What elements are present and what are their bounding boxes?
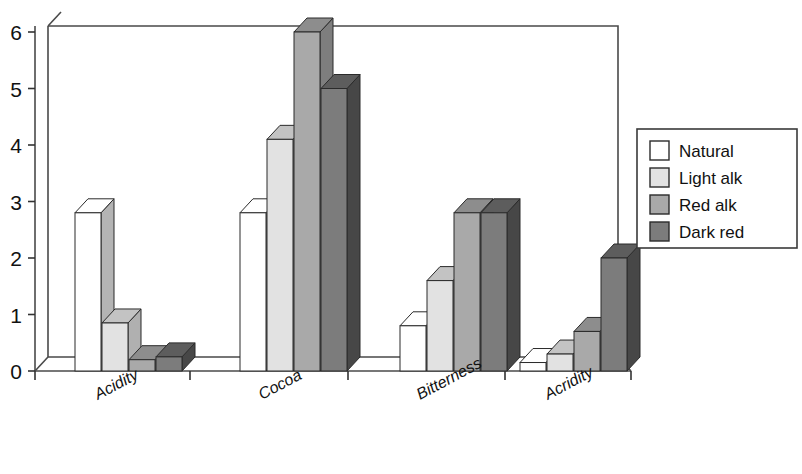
y-tick-label-4: 4 xyxy=(10,134,22,157)
bar-acridity-dark-red xyxy=(601,244,640,371)
bar-front-face xyxy=(427,281,453,371)
chart-container: 0123456 AcidityCocoaBitternessAcridity N… xyxy=(0,0,802,474)
bar-bitterness-dark-red xyxy=(481,199,520,371)
bar-cocoa-dark-red xyxy=(321,75,360,372)
y-tick-label-5: 5 xyxy=(10,78,22,101)
legend-swatch xyxy=(650,168,669,187)
bar-chart-3d: 0123456 AcidityCocoaBitternessAcridity N… xyxy=(0,0,802,474)
bar-front-face xyxy=(400,326,426,371)
legend-label: Dark red xyxy=(679,223,744,242)
legend-swatch xyxy=(650,195,669,214)
plot-floor-left-diagonal xyxy=(35,357,48,371)
y-tick-label-6: 6 xyxy=(10,21,22,44)
legend-item-natural[interactable]: Natural xyxy=(650,141,734,161)
bar-front-face xyxy=(267,139,293,371)
y-axis-ticks: 0123456 xyxy=(10,21,35,383)
bar-side-face xyxy=(347,75,360,372)
bar-side-face xyxy=(627,244,640,371)
legend-label: Red alk xyxy=(679,196,737,215)
legend-swatch xyxy=(650,141,669,160)
y-tick-label-0: 0 xyxy=(10,360,22,383)
bar-front-face xyxy=(601,258,627,371)
legend-swatch xyxy=(650,222,669,241)
bar-front-face xyxy=(454,213,480,371)
legend-item-light-alk[interactable]: Light alk xyxy=(650,168,743,188)
legend: NaturalLight alkRed alkDark red xyxy=(637,129,797,248)
y-tick-label-2: 2 xyxy=(10,247,22,270)
bar-front-face xyxy=(294,32,320,371)
y-tick-label-1: 1 xyxy=(10,304,22,327)
bar-front-face xyxy=(547,354,573,371)
legend-item-dark-red[interactable]: Dark red xyxy=(650,222,744,242)
plot-depth-edge-left xyxy=(48,12,61,26)
bar-front-face xyxy=(321,89,347,372)
bar-front-face xyxy=(481,213,507,371)
bars-layer xyxy=(75,18,640,371)
bar-front-face xyxy=(240,213,266,371)
bar-front-face xyxy=(520,363,546,371)
bar-front-face xyxy=(156,357,182,371)
bar-front-face xyxy=(102,323,128,371)
bar-front-face xyxy=(75,213,101,371)
y-tick-label-3: 3 xyxy=(10,191,22,214)
legend-item-red-alk[interactable]: Red alk xyxy=(650,195,737,215)
legend-label: Natural xyxy=(679,142,734,161)
legend-label: Light alk xyxy=(679,169,743,188)
bar-side-face xyxy=(507,199,520,371)
